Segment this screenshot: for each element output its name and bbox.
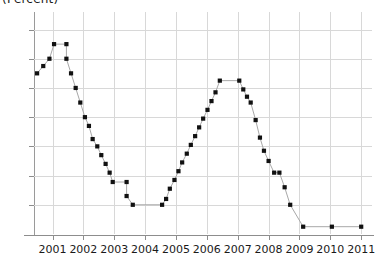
data-point: [160, 203, 164, 207]
x-tick-label: 2011: [347, 243, 375, 256]
x-tick-label: 2008: [255, 243, 283, 256]
data-point: [176, 169, 180, 173]
data-point: [78, 100, 82, 104]
data-point: [201, 117, 205, 121]
data-point: [91, 137, 95, 141]
data-point: [209, 99, 213, 103]
data-point: [35, 71, 39, 75]
data-point: [64, 57, 68, 61]
data-point: [125, 194, 129, 198]
x-tick-mark: [299, 235, 300, 240]
data-point: [185, 152, 189, 156]
data-point: [111, 180, 115, 184]
x-tick-mark: [238, 235, 239, 240]
x-tick-label: 2003: [100, 243, 128, 256]
data-point: [288, 203, 292, 207]
x-tick-mark: [361, 235, 362, 240]
chart-title: (Percent): [2, 0, 58, 6]
data-point: [277, 171, 281, 175]
x-tick-label: 2009: [285, 243, 313, 256]
data-point: [330, 225, 334, 229]
x-tick-mark: [53, 235, 54, 240]
data-point: [47, 57, 51, 61]
data-point: [41, 64, 45, 68]
data-point: [245, 95, 249, 99]
x-tick-label: 2004: [131, 243, 159, 256]
x-tick-label: 2010: [316, 243, 344, 256]
x-tick-mark: [269, 235, 270, 240]
data-point: [241, 87, 245, 91]
data-point: [131, 203, 135, 207]
data-point: [249, 100, 253, 104]
data-point: [164, 197, 168, 201]
data-point: [197, 125, 201, 129]
data-point: [95, 144, 99, 148]
x-tick-mark: [83, 235, 84, 240]
data-point: [266, 159, 270, 163]
data-point: [69, 71, 73, 75]
data-point: [87, 124, 91, 128]
data-point: [193, 134, 197, 138]
data-point: [272, 171, 276, 175]
data-series: [34, 12, 372, 234]
data-point: [108, 171, 112, 175]
data-point: [301, 225, 305, 229]
series-line: [37, 44, 361, 227]
data-point: [104, 162, 108, 166]
data-point: [172, 178, 176, 182]
data-point: [237, 79, 241, 83]
x-tick-label: 2005: [162, 243, 190, 256]
data-point: [64, 42, 68, 46]
data-point: [258, 136, 262, 140]
data-point: [213, 90, 217, 94]
data-point: [83, 115, 87, 119]
x-tick-label: 2001: [39, 243, 67, 256]
data-point: [283, 185, 287, 189]
x-tick-mark: [145, 235, 146, 240]
data-point: [359, 225, 363, 229]
x-tick-mark: [176, 235, 177, 240]
x-tick-mark: [207, 235, 208, 240]
data-point: [125, 180, 129, 184]
chart-container: (Percent) 7%654321 200120022003200420052…: [0, 0, 376, 274]
data-point: [52, 42, 56, 46]
x-tick-mark: [114, 235, 115, 240]
data-point: [99, 153, 103, 157]
plot-area: [34, 12, 372, 234]
x-tick-mark: [330, 235, 331, 240]
data-point: [180, 160, 184, 164]
data-point: [74, 86, 78, 90]
x-tick-label: 2002: [69, 243, 97, 256]
x-tick-label: 2007: [224, 243, 252, 256]
data-point: [205, 108, 209, 112]
x-tick-label: 2006: [193, 243, 221, 256]
data-point: [218, 79, 222, 83]
data-point: [168, 187, 172, 191]
data-point: [262, 149, 266, 153]
data-point: [254, 118, 258, 122]
data-point: [189, 143, 193, 147]
series-markers: [35, 42, 363, 229]
x-axis-line: [24, 235, 374, 236]
